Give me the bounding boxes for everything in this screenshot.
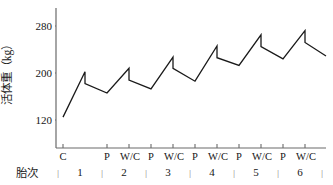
x-tick-label-p-2: P [148, 151, 154, 163]
parity-number-5: 5 [253, 165, 259, 179]
parity-separator-4: | [233, 168, 235, 180]
parity-number-1: 1 [77, 165, 83, 179]
parity-axis-row: 胎次 | 1 | 2 | 3 | 4 | 5 | 6 | [0, 166, 333, 182]
parity-separator-1: | [101, 168, 103, 180]
parity-number-2: 2 [121, 165, 127, 179]
x-tick-label-p-3: P [192, 151, 198, 163]
x-tick-label-p-5: P [280, 151, 286, 163]
x-tick-label-wc-2: W/C [164, 151, 184, 163]
x-tick-label-p-1: P [104, 151, 110, 163]
parity-number-6: 6 [297, 165, 303, 179]
x-tick-label-c: C [59, 151, 66, 163]
x-tick-label-wc-4: W/C [252, 151, 272, 163]
y-tick-label-280: 280 [24, 21, 52, 32]
plot-area [55, 8, 327, 148]
parity-separator-6: | [321, 168, 323, 180]
parity-separator-0: | [57, 168, 59, 180]
data-line-live-weight [63, 31, 326, 117]
parity-separator-5: | [277, 168, 279, 180]
chart-svg [55, 8, 327, 150]
x-axis-title: 胎次 [16, 166, 38, 180]
x-tick-label-p-4: P [236, 151, 242, 163]
y-axis-title: 活体重（kg） [0, 18, 16, 126]
chart-figure: 活体重（kg） 280 200 120 [0, 0, 333, 185]
x-axis-tick-labels: C P W/C P W/C P W/C P W/C P W/C [0, 151, 333, 165]
parity-separator-3: | [189, 168, 191, 180]
x-tick-label-wc-3: W/C [208, 151, 228, 163]
x-tick-label-wc-1: W/C [120, 151, 140, 163]
parity-number-4: 4 [209, 165, 215, 179]
parity-separator-2: | [145, 168, 147, 180]
y-tick-label-120: 120 [24, 115, 52, 126]
y-tick-label-200: 200 [24, 68, 52, 79]
x-tick-label-wc-5: W/C [296, 151, 316, 163]
parity-number-3: 3 [165, 165, 171, 179]
